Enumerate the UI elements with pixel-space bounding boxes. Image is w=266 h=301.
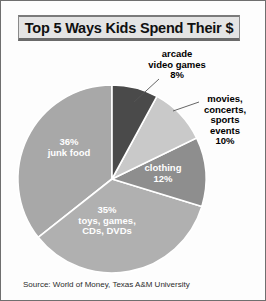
callout-movies-line3: sports — [187, 115, 263, 126]
slice-label-toys-line2: CDs, DVDs — [49, 226, 165, 237]
pie-chart: arcade video games 8% movies, concerts, … — [1, 1, 266, 301]
slice-label-clothing: clothing 12% — [127, 163, 199, 184]
source-attribution: Source: World of Money, Texas A&M Univer… — [23, 280, 190, 289]
callout-arcade-video-games: arcade video games 8% — [129, 49, 225, 81]
callout-movies-percent: 10% — [187, 136, 263, 147]
callout-arcade-line1: arcade — [129, 49, 225, 60]
chart-page: Top 5 Ways Kids Spend Their $ arcade vid… — [0, 0, 266, 301]
callout-arcade-percent: 8% — [129, 70, 225, 81]
slice-label-junk-food-name: junk food — [23, 148, 115, 159]
slice-label-toys-games: 35% toys, games, CDs, DVDs — [49, 205, 165, 237]
slice-label-junk-food: 36% junk food — [23, 137, 115, 158]
slice-label-clothing-percent: 12% — [127, 174, 199, 185]
slice-label-junk-food-percent: 36% — [23, 137, 115, 148]
slice-label-clothing-name: clothing — [127, 163, 199, 174]
callout-movies-concerts: movies, concerts, sports events 10% — [187, 94, 263, 147]
slice-label-toys-percent: 35% — [49, 205, 165, 216]
callout-movies-line1: movies, — [187, 94, 263, 105]
